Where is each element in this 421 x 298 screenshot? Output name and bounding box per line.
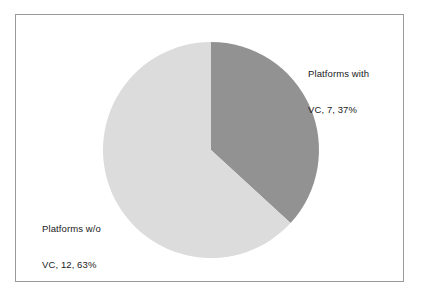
pie-label-without-vc-line1: Platforms w/o (42, 223, 101, 235)
pie-label-platforms-with-vc: Platforms with VC, 7, 37% (308, 44, 369, 140)
pie-label-without-vc-line2: VC, 12, 63% (42, 259, 101, 271)
pie-slice-group (103, 42, 319, 258)
pie-label-platforms-without-vc: Platforms w/o VC, 12, 63% (42, 199, 101, 295)
chart-canvas: Platforms with VC, 7, 37% Platforms w/o … (0, 0, 421, 298)
pie-label-with-vc-line1: Platforms with (308, 68, 369, 80)
pie-label-with-vc-line2: VC, 7, 37% (308, 104, 369, 116)
